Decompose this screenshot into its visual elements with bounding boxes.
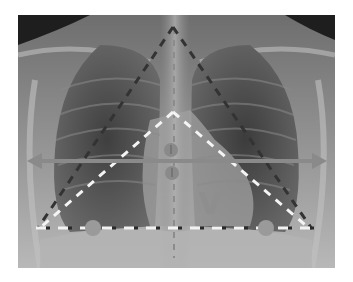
left-base-circle [85,220,101,236]
chest-xray-figure: V [0,0,353,282]
v-label: V [198,186,222,221]
right-base-circle [258,220,274,236]
xray-image [18,15,335,268]
